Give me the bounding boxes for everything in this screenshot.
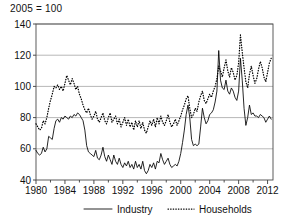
legend-label-industry: Industry — [117, 204, 153, 215]
x-tick-label-2008: 2008 — [228, 185, 251, 196]
y-tick-label-100: 100 — [14, 81, 31, 92]
x-tick-label-1984: 1984 — [54, 185, 77, 196]
x-tick-label-1996: 1996 — [141, 185, 164, 196]
series-line-households — [36, 35, 271, 133]
x-tick-label-1992: 1992 — [112, 185, 135, 196]
plot-frame — [36, 24, 273, 180]
legend-label-households: Households — [199, 204, 252, 215]
x-tick-label-2012: 2012 — [256, 185, 279, 196]
x-tick-label-2000: 2000 — [170, 185, 193, 196]
gridlines — [36, 24, 273, 149]
plot-border — [36, 24, 273, 180]
chart-legend: IndustryHouseholds — [84, 204, 252, 215]
y-tick-label-140: 140 — [14, 19, 31, 30]
x-tick-label-2004: 2004 — [199, 185, 222, 196]
chart-plot-area: 406080100120140 198019841988199219962000… — [0, 0, 285, 222]
chart-figure: 2005 = 100 406080100120140 1980198419881… — [0, 0, 285, 222]
series-line-industry — [36, 51, 271, 174]
data-series — [36, 35, 271, 174]
y-tick-label-80: 80 — [20, 112, 32, 123]
y-tick-label-40: 40 — [20, 175, 32, 186]
y-tick-label-120: 120 — [14, 50, 31, 61]
x-tick-label-1988: 1988 — [83, 185, 106, 196]
x-axis-ticks: 198019841988199219962000200420082012 — [25, 180, 279, 196]
y-axis-ticks: 406080100120140 — [14, 19, 36, 186]
y-tick-label-60: 60 — [20, 143, 32, 154]
x-tick-label-1980: 1980 — [25, 185, 48, 196]
